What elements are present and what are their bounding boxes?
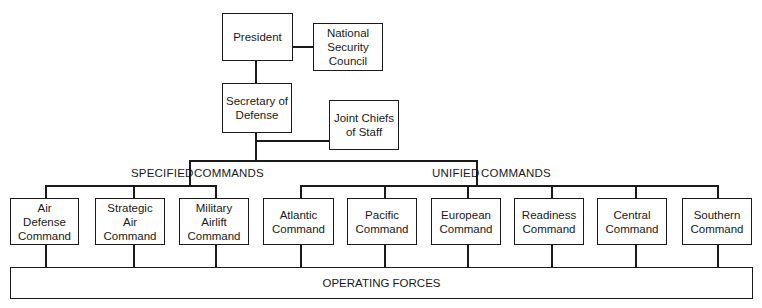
president-box: President: [222, 13, 293, 61]
link-central-forces: [635, 244, 637, 268]
jcs-box: Joint Chiefs of Staff: [329, 100, 399, 150]
drop-strategic-air: [133, 185, 135, 199]
southern-command-box: Southern Command: [682, 198, 752, 245]
drop-european: [467, 185, 469, 199]
drop-central: [635, 185, 637, 199]
link-strategic-air-forces: [133, 244, 135, 268]
pacific-command-box: Pacific Command: [347, 198, 417, 245]
link-readiness-forces: [551, 244, 553, 268]
specified-label: SPECIFIED: [131, 167, 194, 179]
drop-air-defense: [45, 185, 47, 199]
air-defense-command-box: Air Defense Command: [10, 198, 79, 245]
drop-military-airlift: [215, 185, 217, 199]
specified-commands-label: COMMANDS: [194, 167, 264, 179]
connector-secdef-jcs: [255, 140, 329, 142]
connector-branch-bar: [189, 160, 477, 162]
link-pacific-forces: [384, 244, 386, 268]
connector-specified-bar: [45, 185, 216, 187]
readiness-command-box: Readiness Command: [514, 198, 584, 245]
connector-secdef-down: [255, 132, 257, 161]
link-european-forces: [467, 244, 469, 268]
drop-southern: [717, 185, 719, 199]
link-military-airlift-forces: [215, 244, 217, 268]
drop-atlantic: [300, 185, 302, 199]
link-atlantic-forces: [300, 244, 302, 268]
unified-commands-label: COMMANDS: [481, 167, 551, 179]
nsc-box: National Security Council: [313, 23, 383, 71]
military-airlift-command-box: Military Airlift Command: [179, 198, 249, 245]
operating-forces-box: OPERATING FORCES: [10, 267, 753, 299]
atlantic-command-box: Atlantic Command: [263, 198, 334, 245]
secdef-box: Secretary of Defense: [222, 83, 292, 133]
strategic-air-command-box: Strategic Air Command: [95, 198, 165, 245]
connector-president-nsc: [292, 46, 314, 48]
connector-unified-bar: [300, 185, 718, 187]
link-air-defense-forces: [45, 244, 47, 268]
link-southern-forces: [717, 244, 719, 268]
unified-label: UNIFIED: [432, 167, 479, 179]
central-command-box: Central Command: [597, 198, 667, 245]
drop-readiness: [551, 185, 553, 199]
drop-pacific: [384, 185, 386, 199]
connector-president-secdef: [255, 60, 257, 85]
european-command-box: European Command: [431, 198, 501, 245]
